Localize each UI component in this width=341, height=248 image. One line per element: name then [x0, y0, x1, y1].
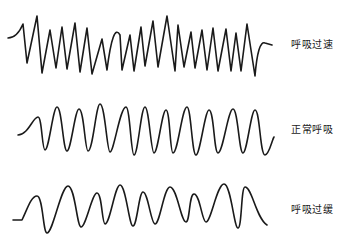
wave-rapid-breathing — [8, 16, 272, 76]
wave-normal-breathing — [18, 104, 274, 155]
wave-slow-breathing — [13, 184, 267, 233]
label-rapid-breathing: 呼吸过速 — [291, 36, 333, 51]
breathing-patterns-diagram — [0, 0, 341, 248]
label-normal-breathing: 正常呼吸 — [291, 121, 333, 136]
label-slow-breathing: 呼吸过缓 — [291, 201, 333, 216]
